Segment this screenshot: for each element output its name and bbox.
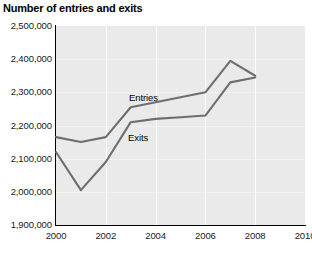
series-lines [0, 0, 312, 256]
chart-container: Number of entries and exits 1,900,0002,0… [0, 0, 312, 256]
series-label-entries: Entries [129, 92, 158, 103]
series-label-exits: Exits [128, 132, 148, 143]
